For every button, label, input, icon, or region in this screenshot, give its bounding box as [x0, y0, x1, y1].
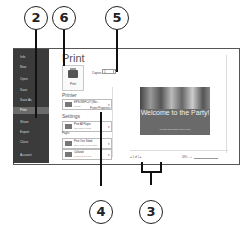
- slide-title: Welcome to the Party!: [140, 109, 210, 117]
- callout-3: 3: [139, 200, 163, 224]
- slide-preview: Welcome to the Party! Celebrate Bob's Bi…: [140, 87, 210, 135]
- zoom-level[interactable]: 48% − +: [182, 156, 192, 159]
- sides-subtitle: Only print on one side: [74, 144, 97, 147]
- print-range-dropdown[interactable]: Print All Pages The whole thing ▾: [62, 121, 112, 132]
- callout-5: 5: [105, 6, 129, 30]
- sidebar-item-info[interactable]: Info: [20, 55, 25, 59]
- sidebar-item-open[interactable]: Open: [20, 77, 28, 81]
- preview-scrollbar[interactable]: [226, 55, 231, 153]
- sidebar-item-share[interactable]: Share: [20, 120, 29, 124]
- printer-icon: [65, 102, 72, 107]
- callout-line-6: [63, 28, 65, 66]
- callout-line-4: [100, 112, 102, 186]
- callout-line-2: [35, 28, 37, 118]
- collate-dropdown[interactable]: Collated 1,2,3 1,2,3 1,2,3 ▾: [62, 149, 112, 160]
- chevron-down-icon: ▾: [108, 125, 110, 129]
- printer-name: EPSON9FC47 (Wor...: [74, 101, 99, 104]
- sidebar-item-save[interactable]: Save: [20, 88, 27, 92]
- print-range-title: Print All Pages: [74, 123, 91, 126]
- pages-icon: [65, 124, 72, 129]
- chevron-down-icon: ▾: [108, 142, 110, 146]
- sidebar-item-close[interactable]: Close: [20, 140, 28, 144]
- printer-properties-link[interactable]: Printer Properties: [90, 107, 110, 110]
- zoom-slider[interactable]: [194, 158, 218, 159]
- sidebar-item-print[interactable]: Print: [13, 107, 49, 114]
- sides-dropdown[interactable]: Print One Sided Only print on one side ▾: [62, 138, 112, 149]
- callout-2: 2: [24, 6, 48, 30]
- preview-hscrollbar[interactable]: [130, 150, 228, 151]
- party-photo: [140, 87, 210, 109]
- print-button-label: Print: [63, 82, 83, 86]
- collate-icon: [65, 152, 72, 157]
- callout-line-5: [116, 28, 118, 72]
- printer-heading: Printer: [62, 92, 77, 98]
- print-preview: Welcome to the Party! Celebrate Bob's Bi…: [122, 49, 235, 163]
- callout-line-3: [150, 171, 152, 185]
- printer-icon: [68, 70, 78, 78]
- backstage-sidebar: Info New Open Save Save As Print Share E…: [13, 49, 49, 163]
- callout-4: 4: [89, 200, 113, 224]
- collate-subtitle: 1,2,3 1,2,3 1,2,3: [74, 155, 91, 158]
- sidebar-item-account[interactable]: Account: [20, 153, 32, 157]
- pages-label: Pages:: [62, 132, 70, 135]
- sides-title: Print One Sided: [74, 140, 92, 143]
- settings-heading: Settings: [62, 113, 80, 119]
- preview-status-bar: ◂ 1 of 1 ▸ 48% − +: [130, 155, 230, 161]
- settings-scrollbar[interactable]: [112, 87, 117, 157]
- callout-6: 6: [52, 6, 76, 30]
- collate-title: Collated: [74, 151, 84, 154]
- sidebar-item-save-as[interactable]: Save As: [20, 98, 32, 102]
- print-panel: Print Print Copies: 1 ▴▾ Printer EPSON9F…: [50, 49, 237, 163]
- printer-status: Ready: [74, 105, 81, 108]
- print-button[interactable]: Print: [62, 65, 84, 91]
- sidebar-item-export[interactable]: Export: [20, 130, 29, 134]
- page-title: Print: [62, 52, 85, 64]
- chevron-down-icon: ▾: [108, 153, 110, 157]
- slide-subtitle: Celebrate Bob's Birthday Before Friday: [140, 128, 210, 130]
- page-navigation[interactable]: ◂ 1 of 1 ▸: [130, 156, 142, 159]
- copies-label: Copies:: [92, 71, 102, 75]
- print-range-subtitle: The whole thing: [74, 127, 91, 130]
- sidebar-item-new[interactable]: New: [20, 65, 26, 69]
- one-sided-icon: [65, 141, 72, 146]
